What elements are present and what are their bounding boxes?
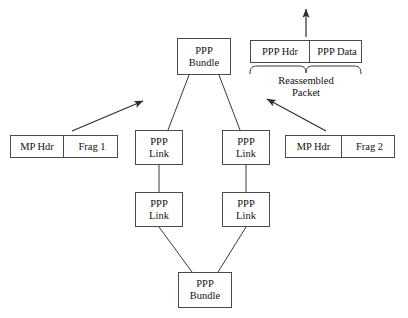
connector-bundle-top-to-link-left — [168, 75, 189, 130]
ppp-link-right-upper: PPPLink — [222, 130, 270, 165]
ppp-link-right-lower-label-line: PPP — [236, 198, 256, 210]
ppp-link-right-lower-label-line: Link — [236, 210, 256, 222]
connector-bundle-top-to-link-right — [219, 75, 240, 130]
ppp-link-left-upper-label-line: PPP — [149, 136, 169, 148]
brace-group — [250, 66, 361, 74]
ppp-link-right-lower-label: PPPLink — [236, 198, 256, 222]
ppp-bundle-bottom-label-line: Bundle — [190, 290, 220, 302]
ppp-bundle-bottom: PPPBundle — [178, 272, 232, 308]
ppp-bundle-top: PPPBundle — [177, 38, 231, 75]
ppp-bundle-top-label-line: Bundle — [189, 57, 219, 69]
ppp-bundle-bottom-label-line: PPP — [190, 278, 220, 290]
ppp-link-left-lower: PPPLink — [135, 192, 183, 227]
ppp-link-right-lower: PPPLink — [222, 192, 270, 227]
diagram-canvas: PPPBundlePPPLinkPPPLinkPPPLinkPPPLinkPPP… — [0, 0, 408, 318]
connector-group — [159, 75, 246, 272]
ppp-link-left-lower-label-line: Link — [149, 210, 169, 222]
mp-hdr-segment-2: MP Hdr — [286, 136, 341, 157]
frag-2-inbound-arrow — [267, 99, 326, 131]
ppp-link-left-lower-label: PPPLink — [149, 198, 169, 222]
ppp-link-right-upper-label: PPPLink — [236, 136, 256, 160]
frag-1-inbound-arrow — [72, 101, 143, 131]
ppp-hdr-segment: PPP Hdr — [251, 41, 309, 62]
reassembled-packet-caption: ReassembledPacket — [256, 75, 356, 100]
reassembled-packet-brace — [250, 66, 361, 74]
fragment-2-box: MP HdrFrag 2 — [285, 135, 395, 158]
reassembled-packet-caption-line: Packet — [256, 87, 356, 99]
ppp-link-right-upper-label-line: Link — [236, 148, 256, 160]
frag-2-segment: Frag 2 — [342, 136, 397, 157]
ppp-bundle-top-label-line: PPP — [189, 45, 219, 57]
reassembled-packet-box: PPP HdrPPP Data — [250, 40, 362, 63]
reassembled-packet-caption-line: Reassembled — [256, 75, 356, 87]
ppp-bundle-top-label: PPPBundle — [189, 45, 219, 69]
ppp-link-left-upper: PPPLink — [135, 130, 183, 165]
connector-link-right-lower-to-bundle-bottom — [218, 227, 246, 272]
ppp-bundle-bottom-label: PPPBundle — [190, 278, 220, 302]
fragment-1-box: MP HdrFrag 1 — [10, 135, 118, 158]
frag-1-segment: Frag 1 — [64, 136, 120, 157]
ppp-link-left-upper-label: PPPLink — [149, 136, 169, 160]
ppp-link-right-upper-label-line: PPP — [236, 136, 256, 148]
mp-hdr-segment-1: MP Hdr — [11, 136, 63, 157]
ppp-link-left-upper-label-line: Link — [149, 148, 169, 160]
ppp-data-segment: PPP Data — [310, 41, 364, 62]
connector-link-left-lower-to-bundle-bottom — [159, 227, 192, 272]
ppp-link-left-lower-label-line: PPP — [149, 198, 169, 210]
